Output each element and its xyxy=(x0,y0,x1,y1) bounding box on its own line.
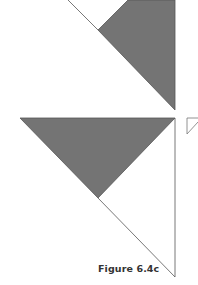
geometric-figure xyxy=(0,0,198,285)
figure-caption: Figure 6.4c xyxy=(98,263,159,274)
small-corner-triangle xyxy=(187,118,198,134)
lower-shaded-triangle xyxy=(20,118,175,198)
upper-shaded-triangle xyxy=(98,0,175,110)
upper-diagonal-line xyxy=(68,0,98,30)
